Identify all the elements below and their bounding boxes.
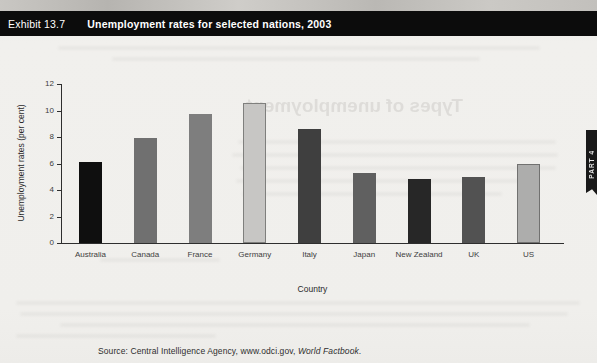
bar-new-zealand <box>408 179 431 243</box>
bar-australia <box>79 162 102 243</box>
bar-germany <box>243 103 266 243</box>
bleed-through-line <box>16 334 216 338</box>
y-tick-mark <box>57 111 61 112</box>
y-tick-label-6: 6 <box>34 159 54 169</box>
x-category-label-new-zealand: New Zealand <box>395 250 443 260</box>
y-tick-mark <box>57 243 61 244</box>
bar-us <box>517 164 540 244</box>
bleed-through-line <box>16 301 580 305</box>
bar-france <box>189 114 212 243</box>
x-category-label-uk: UK <box>450 250 498 260</box>
bleed-through-line <box>236 179 536 183</box>
y-tick-mark <box>57 164 61 165</box>
y-tick-label-4: 4 <box>34 185 54 195</box>
bar-uk <box>462 177 485 243</box>
x-category-label-germany: Germany <box>231 250 279 260</box>
bleed-through-line <box>232 153 558 157</box>
bleed-through-headline: Types of unemployment <box>233 95 463 117</box>
source-period: . <box>359 346 361 356</box>
source-citation: Source: Central Intelligence Agency, www… <box>98 346 361 356</box>
x-category-label-us: US <box>505 250 553 260</box>
x-axis-line <box>61 243 564 244</box>
x-category-label-japan: Japan <box>340 250 388 260</box>
y-axis-line <box>61 84 62 243</box>
part-tab-label: PART 4 <box>588 146 595 179</box>
x-axis-title: Country <box>61 284 564 294</box>
textbook-page: Exhibit 13.7 Unemployment rates for sele… <box>0 0 597 363</box>
bleed-through-line <box>240 166 556 170</box>
bleed-through-line <box>238 140 556 144</box>
source-text: Source: Central Intelligence Agency, www… <box>98 346 298 356</box>
bar-canada <box>134 138 157 243</box>
bleed-through-line <box>112 57 480 61</box>
bleed-through-line <box>60 323 530 327</box>
y-tick-label-12: 12 <box>34 79 54 89</box>
bleed-through-line <box>20 312 568 316</box>
exhibit-title: Unemployment rates for selected nations,… <box>87 18 331 30</box>
y-tick-label-8: 8 <box>34 132 54 142</box>
x-category-label-australia: Australia <box>67 250 115 260</box>
y-tick-label-0: 0 <box>34 238 54 248</box>
y-tick-label-2: 2 <box>34 212 54 222</box>
exhibit-number: Exhibit 13.7 <box>8 18 65 30</box>
y-tick-mark <box>57 84 61 85</box>
y-tick-mark <box>57 217 61 218</box>
bleed-through-line <box>58 46 540 50</box>
x-category-label-canada: Canada <box>121 250 169 260</box>
x-category-label-france: France <box>176 250 224 260</box>
part-tab: PART 4 <box>586 130 597 195</box>
y-axis-title: Unemployment rates (per cent) <box>16 104 26 221</box>
bar-italy <box>298 129 321 243</box>
bar-japan <box>353 173 376 243</box>
y-tick-mark <box>57 190 61 191</box>
exhibit-header-bar: Exhibit 13.7 Unemployment rates for sele… <box>0 11 597 36</box>
y-tick-mark <box>57 137 61 138</box>
x-category-label-italy: Italy <box>286 250 334 260</box>
source-work-title: World Factbook <box>298 346 359 356</box>
y-tick-label-10: 10 <box>34 106 54 116</box>
page-top-edge <box>0 0 597 11</box>
